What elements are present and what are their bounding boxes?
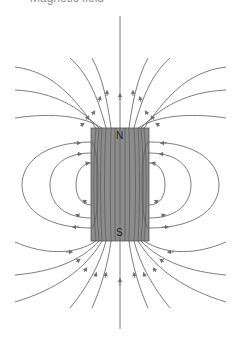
loop-right-inner xyxy=(149,163,165,205)
north-pole-label: N xyxy=(116,130,123,141)
loop-right-outer xyxy=(149,142,219,228)
loop-left-outer xyxy=(22,142,92,228)
field-lines-svg xyxy=(0,0,241,346)
loop-left-middle xyxy=(50,153,92,218)
loop-right-middle xyxy=(149,153,191,218)
south-pole-label: S xyxy=(116,227,123,238)
field-line-top-right-1 xyxy=(144,67,226,128)
magnetic-field-diagram: Magnetic field xyxy=(0,0,241,346)
field-line-top-left-1 xyxy=(15,67,96,128)
loop-left-inner xyxy=(76,163,92,205)
